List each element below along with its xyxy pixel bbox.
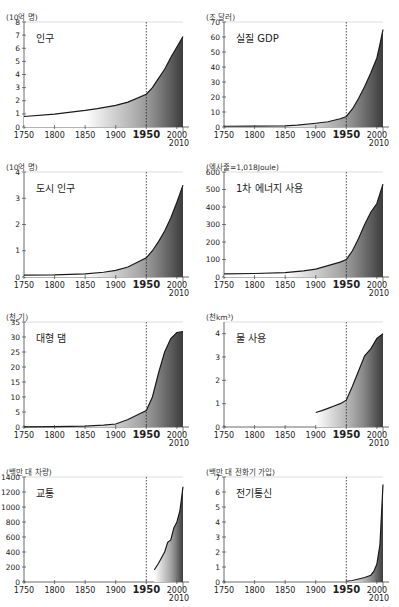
svg-text:1800: 1800 bbox=[44, 131, 64, 140]
svg-text:1850: 1850 bbox=[75, 431, 95, 440]
svg-text:300: 300 bbox=[206, 220, 221, 229]
svg-text:2: 2 bbox=[15, 220, 20, 229]
svg-text:2010: 2010 bbox=[369, 439, 389, 448]
svg-text:100: 100 bbox=[206, 255, 221, 264]
svg-text:800: 800 bbox=[6, 518, 21, 527]
chart-plot: 0102030405060701750180018501900195020002… bbox=[200, 0, 399, 152]
svg-text:7: 7 bbox=[15, 31, 20, 40]
chart-title: 전기통신 bbox=[236, 485, 272, 500]
chart-plot: 012341750180018501900195020002010 bbox=[0, 150, 199, 302]
svg-text:1: 1 bbox=[215, 399, 220, 408]
svg-text:1800: 1800 bbox=[244, 586, 264, 595]
svg-text:1800: 1800 bbox=[244, 131, 264, 140]
svg-text:35: 35 bbox=[10, 318, 20, 327]
svg-text:15: 15 bbox=[10, 378, 20, 387]
svg-text:1750: 1750 bbox=[14, 131, 34, 140]
svg-text:50: 50 bbox=[210, 48, 220, 57]
svg-text:1: 1 bbox=[215, 563, 220, 572]
svg-text:1900: 1900 bbox=[106, 586, 126, 595]
svg-text:200: 200 bbox=[206, 238, 221, 247]
svg-text:400: 400 bbox=[206, 203, 221, 212]
svg-text:2010: 2010 bbox=[369, 139, 389, 148]
svg-text:1850: 1850 bbox=[75, 131, 95, 140]
svg-text:40: 40 bbox=[210, 63, 220, 72]
chart-plot: 0200400600800100012001400175018001850190… bbox=[0, 455, 199, 607]
svg-text:2010: 2010 bbox=[169, 594, 189, 603]
svg-text:3: 3 bbox=[215, 533, 220, 542]
svg-text:1750: 1750 bbox=[14, 431, 34, 440]
svg-text:1950: 1950 bbox=[332, 129, 360, 140]
svg-text:1000: 1000 bbox=[1, 503, 20, 512]
svg-text:1750: 1750 bbox=[214, 431, 234, 440]
chart-plot: 0510152025303517501800185019001950200020… bbox=[0, 300, 199, 452]
chart-panel-telecommunications: (백만 대 전화기 가입)012345671750180018501900195… bbox=[200, 455, 399, 607]
chart-title: 교통 bbox=[36, 485, 54, 500]
svg-text:1950: 1950 bbox=[332, 429, 360, 440]
svg-text:1200: 1200 bbox=[1, 488, 20, 497]
svg-text:3: 3 bbox=[15, 83, 20, 92]
svg-text:1800: 1800 bbox=[44, 281, 64, 290]
svg-text:1750: 1750 bbox=[214, 131, 234, 140]
chart-plot: 012341750180018501900195020002010 bbox=[200, 300, 399, 452]
chart-panel-population: (10억 명)012345678175018001850190019502000… bbox=[0, 0, 199, 152]
svg-text:4: 4 bbox=[215, 518, 220, 527]
svg-text:1950: 1950 bbox=[132, 279, 160, 290]
svg-text:1750: 1750 bbox=[214, 281, 234, 290]
svg-text:2: 2 bbox=[15, 96, 20, 105]
chart-panel-water-use: (천km³)012341750180018501900195020002010물… bbox=[200, 300, 399, 452]
chart-title: 인구 bbox=[36, 30, 54, 45]
svg-text:2010: 2010 bbox=[369, 594, 389, 603]
svg-text:1950: 1950 bbox=[132, 129, 160, 140]
svg-text:1900: 1900 bbox=[306, 586, 326, 595]
chart-title: 실질 GDP bbox=[236, 30, 279, 45]
svg-text:1800: 1800 bbox=[244, 281, 264, 290]
svg-text:2: 2 bbox=[215, 548, 220, 557]
svg-text:1800: 1800 bbox=[244, 431, 264, 440]
svg-text:1850: 1850 bbox=[75, 586, 95, 595]
svg-text:1900: 1900 bbox=[106, 281, 126, 290]
svg-text:1750: 1750 bbox=[14, 586, 34, 595]
svg-text:20: 20 bbox=[210, 93, 220, 102]
svg-text:1900: 1900 bbox=[306, 131, 326, 140]
chart-panel-transportation: (백만 대 차량)0200400600800100012001400175018… bbox=[0, 455, 199, 607]
svg-text:20: 20 bbox=[10, 363, 20, 372]
svg-text:6: 6 bbox=[215, 488, 220, 497]
svg-text:1900: 1900 bbox=[106, 131, 126, 140]
svg-text:2010: 2010 bbox=[169, 289, 189, 298]
svg-text:200: 200 bbox=[6, 563, 21, 572]
svg-text:1900: 1900 bbox=[306, 431, 326, 440]
svg-text:3: 3 bbox=[215, 353, 220, 362]
svg-text:1800: 1800 bbox=[44, 586, 64, 595]
svg-text:5: 5 bbox=[15, 57, 20, 66]
svg-text:1900: 1900 bbox=[106, 431, 126, 440]
svg-text:2: 2 bbox=[215, 376, 220, 385]
svg-text:1750: 1750 bbox=[14, 281, 34, 290]
chart-plot: 0100200300400500600175018001850190019502… bbox=[200, 150, 399, 302]
svg-text:1400: 1400 bbox=[1, 473, 20, 482]
chart-title: 도시 인구 bbox=[36, 180, 75, 195]
chart-panel-large-dams: (천 기)05101520253035175018001850190019502… bbox=[0, 300, 199, 452]
svg-text:60: 60 bbox=[210, 33, 220, 42]
svg-text:1950: 1950 bbox=[332, 279, 360, 290]
chart-panel-real-gdp: (조 달러)0102030405060701750180018501900195… bbox=[200, 0, 399, 152]
svg-text:25: 25 bbox=[10, 348, 20, 357]
svg-text:1800: 1800 bbox=[44, 431, 64, 440]
svg-text:1: 1 bbox=[15, 109, 20, 118]
svg-text:10: 10 bbox=[210, 108, 220, 117]
svg-text:6: 6 bbox=[15, 44, 20, 53]
svg-text:4: 4 bbox=[15, 168, 20, 177]
svg-text:5: 5 bbox=[215, 503, 220, 512]
svg-text:600: 600 bbox=[206, 168, 221, 177]
svg-text:3: 3 bbox=[15, 194, 20, 203]
svg-text:2010: 2010 bbox=[169, 139, 189, 148]
svg-text:1750: 1750 bbox=[214, 586, 234, 595]
svg-text:600: 600 bbox=[6, 533, 21, 542]
chart-title: 대형 댐 bbox=[36, 330, 66, 345]
chart-panel-primary-energy: (엑사줄=1,018Joule)010020030040050060017501… bbox=[200, 150, 399, 302]
chart-title: 1차 에너지 사용 bbox=[236, 180, 303, 195]
svg-text:1850: 1850 bbox=[75, 281, 95, 290]
svg-text:1950: 1950 bbox=[132, 429, 160, 440]
svg-text:500: 500 bbox=[206, 185, 221, 194]
svg-text:4: 4 bbox=[215, 329, 220, 338]
svg-text:1850: 1850 bbox=[275, 131, 295, 140]
